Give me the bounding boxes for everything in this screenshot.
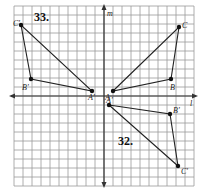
axis-m-arrow-up-icon bbox=[102, 4, 107, 10]
coordinate-grid-diagram: m l C' B' A' 33. A C B A' B' C' 32. bbox=[0, 0, 202, 191]
label-c-prime-32: C' bbox=[181, 167, 188, 176]
point-b-prime-33 bbox=[29, 77, 33, 81]
point-c bbox=[177, 25, 181, 29]
label-a-prime-33: A' bbox=[87, 93, 95, 102]
label-b: B bbox=[170, 83, 175, 92]
axis-m-label: m bbox=[107, 9, 113, 18]
axis-l-arrow-left-icon bbox=[9, 94, 15, 99]
axis-m-arrow-down-icon bbox=[102, 182, 107, 188]
point-a bbox=[111, 89, 115, 93]
point-b bbox=[169, 77, 173, 81]
label-c: C bbox=[182, 21, 188, 30]
axis-l-arrow-right-icon bbox=[192, 94, 198, 99]
problem-number-33: 33. bbox=[34, 10, 49, 24]
point-c-prime-32 bbox=[176, 164, 180, 168]
label-b-prime-33: B' bbox=[22, 83, 29, 92]
label-a-prime-32: A' bbox=[105, 96, 113, 105]
axis-l-label: l bbox=[190, 99, 193, 108]
problem-number-32: 32. bbox=[118, 134, 133, 148]
label-c-prime-33: C' bbox=[13, 19, 20, 28]
triangle-original bbox=[113, 27, 179, 91]
label-b-prime-32: B' bbox=[173, 106, 180, 115]
point-b-prime-32 bbox=[168, 112, 172, 116]
